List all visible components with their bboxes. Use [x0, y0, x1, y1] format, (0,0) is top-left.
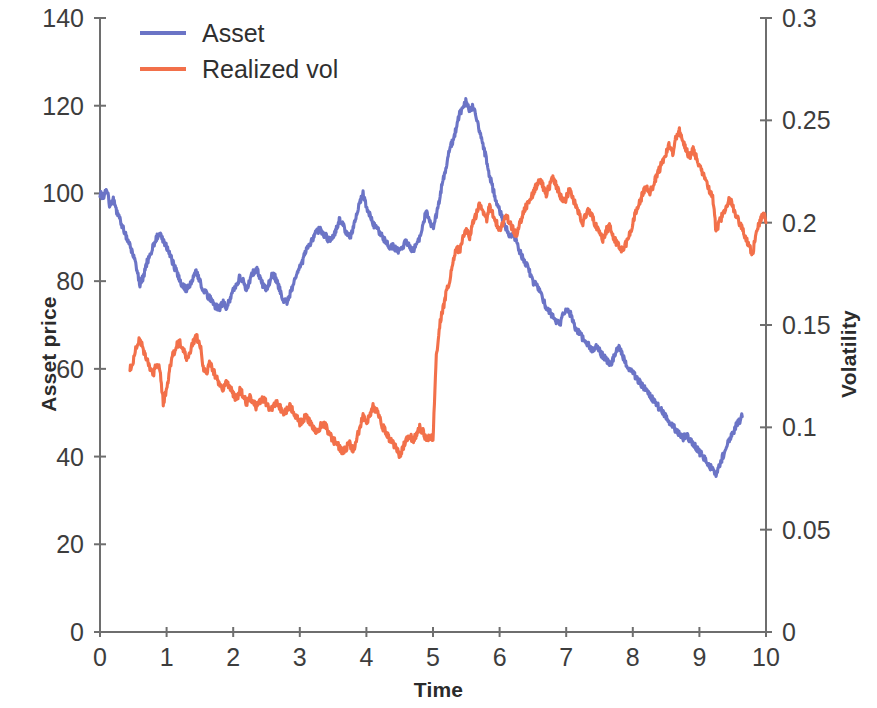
- chart-canvas: 01234567891002040608010012014000.050.10.…: [0, 0, 877, 708]
- x-tick-label: 5: [426, 643, 440, 671]
- x-tick-label: 0: [93, 643, 107, 671]
- x-tick-label: 9: [692, 643, 706, 671]
- y-tick-label-left: 140: [42, 4, 84, 32]
- y-tick-label-right: 0.15: [782, 311, 831, 339]
- y-tick-label-right: 0.1: [782, 413, 817, 441]
- x-tick-label: 7: [559, 643, 573, 671]
- y-tick-label-right: 0.2: [782, 209, 817, 237]
- y-tick-label-left: 20: [56, 530, 84, 558]
- y-tick-label-left: 0: [70, 618, 84, 646]
- series-line-realized-vol: [130, 128, 766, 458]
- y-tick-label-left: 80: [56, 267, 84, 295]
- x-axis-label: Time: [0, 678, 877, 702]
- chart-legend: AssetRealized vol: [140, 19, 338, 83]
- chart-figure: 01234567891002040608010012014000.050.10.…: [0, 0, 877, 708]
- x-tick-label: 10: [752, 643, 780, 671]
- x-tick-label: 4: [359, 643, 373, 671]
- y-tick-label-left: 120: [42, 92, 84, 120]
- series-line-asset: [100, 99, 742, 477]
- y-tick-label-right: 0.05: [782, 516, 831, 544]
- series-group: [100, 99, 766, 477]
- axes-group: 01234567891002040608010012014000.050.10.…: [42, 4, 830, 671]
- legend-label-realized-vol: Realized vol: [202, 55, 338, 83]
- x-tick-label: 2: [226, 643, 240, 671]
- legend-label-asset: Asset: [202, 19, 265, 47]
- y-tick-label-right: 0.25: [782, 106, 831, 134]
- y-axis-right-label: Volatility: [837, 310, 861, 398]
- x-tick-label: 6: [493, 643, 507, 671]
- y-tick-label-left: 100: [42, 179, 84, 207]
- y-tick-label-right: 0.3: [782, 4, 817, 32]
- x-tick-label: 3: [293, 643, 307, 671]
- x-tick-label: 1: [160, 643, 174, 671]
- y-tick-label-right: 0: [782, 618, 796, 646]
- x-tick-label: 8: [626, 643, 640, 671]
- y-axis-left-label: Asset price: [37, 296, 61, 411]
- y-tick-label-left: 40: [56, 443, 84, 471]
